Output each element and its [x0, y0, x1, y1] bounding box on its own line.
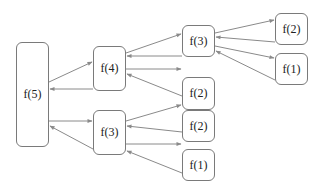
call-node-n3b: f(3) [93, 110, 126, 155]
call-arrow-n4-to-n3a [126, 34, 181, 53]
recursion-tree-diagram: f(5)f(4)f(3)f(3)f(2)f(2)f(1)f(2)f(1) [0, 0, 319, 187]
call-arrow-n3b-to-n2b [126, 105, 181, 121]
node-label: f(2) [283, 22, 301, 37]
call-node-n2a: f(2) [182, 77, 215, 110]
return-arrow-n2b-to-n3b [127, 126, 182, 132]
call-node-n4: f(4) [93, 46, 126, 91]
node-label: f(2) [190, 119, 208, 134]
call-arrow-n5-to-n4 [49, 62, 92, 82]
return-arrow-n2a-to-n4 [127, 74, 182, 96]
node-label: f(2) [190, 86, 208, 101]
node-label: f(5) [24, 87, 42, 102]
node-label: f(1) [190, 158, 208, 173]
node-label: f(3) [190, 34, 208, 49]
node-label: f(3) [101, 125, 119, 140]
call-node-n2b: f(2) [182, 110, 215, 142]
return-arrow-n3b-to-n5 [50, 126, 93, 149]
call-node-n5: f(5) [16, 42, 49, 147]
node-label: f(4) [101, 61, 119, 76]
call-arrow-n3a-to-n2c [215, 20, 274, 33]
call-node-n1b: f(1) [182, 149, 215, 181]
call-arrow-n3a-to-n1c [215, 46, 274, 58]
call-node-n3a: f(3) [182, 25, 215, 57]
node-label: f(1) [283, 62, 301, 77]
return-arrow-n1b-to-n3b [127, 151, 182, 173]
call-node-n1c: f(1) [275, 53, 308, 85]
return-arrow-n2c-to-n3a [216, 37, 275, 42]
return-arrow-n1c-to-n3a [216, 51, 275, 80]
call-node-n2c: f(2) [275, 13, 308, 45]
